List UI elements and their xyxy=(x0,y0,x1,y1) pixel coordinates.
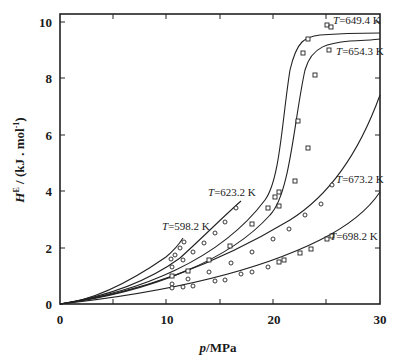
label-654K: T=654.3 K xyxy=(336,45,384,57)
label-654K-value: =654.3 K xyxy=(342,45,384,57)
y-tick-label-2: 2 xyxy=(46,241,53,256)
y-axis-unit: / (kJ . mol xyxy=(12,128,27,187)
x-axis-unit: /MPa xyxy=(205,340,237,355)
svg-text:HE / (kJ . mol-1): HE / (kJ . mol-1) xyxy=(12,117,27,203)
x-tick-label-30: 30 xyxy=(374,312,387,327)
y-tick-label-10: 10 xyxy=(39,15,52,30)
label-649K: T=649.4 K xyxy=(333,14,381,26)
label-673K-value: =673.2 K xyxy=(342,173,384,185)
y-tick-label-6: 6 xyxy=(46,128,53,143)
label-698K-value: =698.2 K xyxy=(336,230,378,242)
label-623K-value: =623.2 K xyxy=(214,186,256,198)
curve-673K xyxy=(60,95,380,304)
markers-698K xyxy=(170,234,334,290)
curve-623K xyxy=(60,201,241,304)
y-tick-label-0: 0 xyxy=(46,297,53,312)
x-tick-label-10: 10 xyxy=(161,312,174,327)
curve-698K xyxy=(60,192,380,304)
label-598K: T=598.2 K xyxy=(162,220,210,232)
chart-canvas: 10 8 6 4 2 0 0 10 20 30 p/MPa HE / (kJ .… xyxy=(0,0,394,364)
y-axis-ticks xyxy=(60,22,380,248)
curves xyxy=(60,33,380,304)
x-tick-label-20: 20 xyxy=(268,312,281,327)
y-axis-title: HE / (kJ . mol-1) xyxy=(12,117,27,203)
y-axis-close: ) xyxy=(12,117,27,121)
label-698K: T=698.2 K xyxy=(330,230,378,242)
label-649K-value: =649.4 K xyxy=(339,14,381,26)
label-598K-value: =598.2 K xyxy=(168,220,210,232)
label-623K: T=623.2 K xyxy=(208,186,256,198)
plot-frame xyxy=(60,14,380,304)
curve-598K xyxy=(60,238,183,304)
x-axis-title: p/MPa xyxy=(199,340,237,355)
label-673K: T=673.2 K xyxy=(336,173,384,185)
markers-654K xyxy=(277,48,331,208)
x-tick-label-0: 0 xyxy=(57,312,64,327)
y-axis-exponent: -1 xyxy=(12,122,21,129)
y-tick-label-4: 4 xyxy=(46,184,53,199)
curve-654K xyxy=(60,39,380,304)
y-tick-label-8: 8 xyxy=(46,71,53,86)
curve-649K xyxy=(60,33,380,304)
